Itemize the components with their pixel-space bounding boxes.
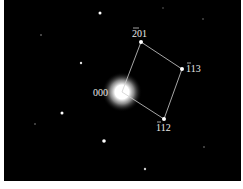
label-201: 201: [132, 28, 147, 39]
spot: [80, 62, 82, 64]
figure: 000 201 113 112: [0, 0, 243, 189]
spot: [102, 139, 106, 143]
spot: [34, 123, 36, 125]
label-000: 000: [93, 87, 108, 98]
spot: [144, 168, 146, 170]
diffraction-overlay: 000 201 113 112: [0, 0, 243, 189]
spot-201: [139, 40, 143, 44]
spot-113: [180, 67, 184, 71]
spot: [203, 146, 205, 148]
spot: [40, 34, 42, 36]
spot: [162, 7, 164, 9]
spot: [99, 12, 102, 15]
spot: [61, 112, 64, 115]
label-113: 113: [186, 63, 201, 74]
spot: [202, 18, 204, 20]
spot-112: [162, 117, 166, 121]
label-112: 112: [156, 122, 171, 133]
